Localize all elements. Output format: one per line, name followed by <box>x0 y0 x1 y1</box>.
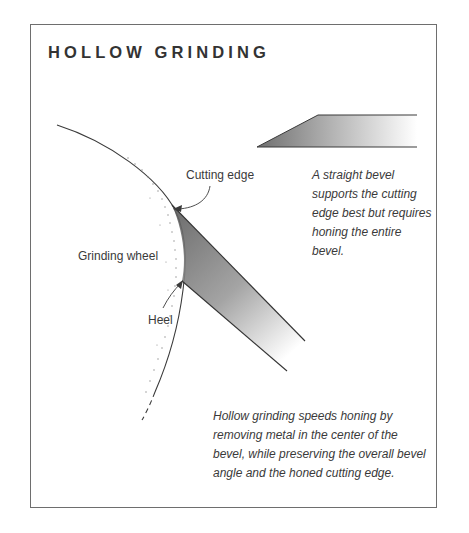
straight-bevel-illustration <box>257 115 417 147</box>
grinding-wheel-grit <box>127 157 176 392</box>
straight-bevel-shading <box>257 115 417 147</box>
grinding-wheel-rim-dashed <box>142 392 155 420</box>
hollow-grinding-caption: Hollow grinding speeds honing by removin… <box>213 407 428 483</box>
heel-leader <box>163 280 183 308</box>
cutting-edge-leader <box>173 186 210 212</box>
cutting-edge-arrow-line <box>178 186 210 209</box>
blade-shading <box>172 205 305 371</box>
grinding-wheel <box>57 125 185 420</box>
cutting-edge-label: Cutting edge <box>186 168 254 182</box>
grinding-wheel-label: Grinding wheel <box>78 249 158 263</box>
hollow-ground-blade <box>172 205 305 371</box>
heel-label: Heel <box>148 313 173 327</box>
straight-bevel-caption: A straight bevel supports the cutting ed… <box>312 166 432 261</box>
